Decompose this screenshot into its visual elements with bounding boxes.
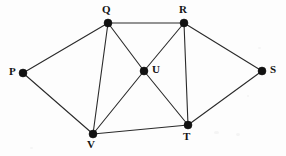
graph-vertex [89, 130, 97, 138]
vertex-label-v: V [87, 139, 95, 150]
graph-edge [93, 23, 108, 134]
scan-artifact [236, 133, 240, 136]
graph-edge [93, 125, 188, 134]
vertex-label-s: S [270, 64, 276, 75]
vertex-group [19, 19, 266, 138]
graph-edge [108, 23, 144, 71]
vertex-label-q: Q [102, 4, 111, 15]
graph-vertex [104, 19, 112, 27]
edge-group [23, 23, 262, 134]
graph-edge [188, 71, 262, 125]
graph-edge [184, 23, 262, 71]
scan-artifact [247, 95, 249, 97]
graph-edge [23, 73, 93, 134]
scan-artifact [258, 47, 261, 49]
vertex-label-t: T [183, 131, 190, 142]
graph-edge [184, 23, 188, 125]
graph-vertex [180, 19, 188, 27]
vertex-label-p: P [9, 66, 16, 77]
diagram-canvas: PQRSUTV [0, 0, 286, 156]
graph-vertex [140, 67, 148, 75]
scan-artifact [214, 131, 219, 134]
graph-vertex [258, 67, 266, 75]
graph-edge [144, 71, 188, 125]
graph-vertex [184, 121, 192, 129]
graph-figure [0, 0, 286, 156]
scan-artifact [30, 147, 33, 149]
graph-edge [144, 23, 184, 71]
graph-vertex [19, 69, 27, 77]
graph-edge [23, 23, 108, 73]
vertex-label-r: R [179, 4, 187, 15]
vertex-label-u: U [152, 64, 160, 75]
